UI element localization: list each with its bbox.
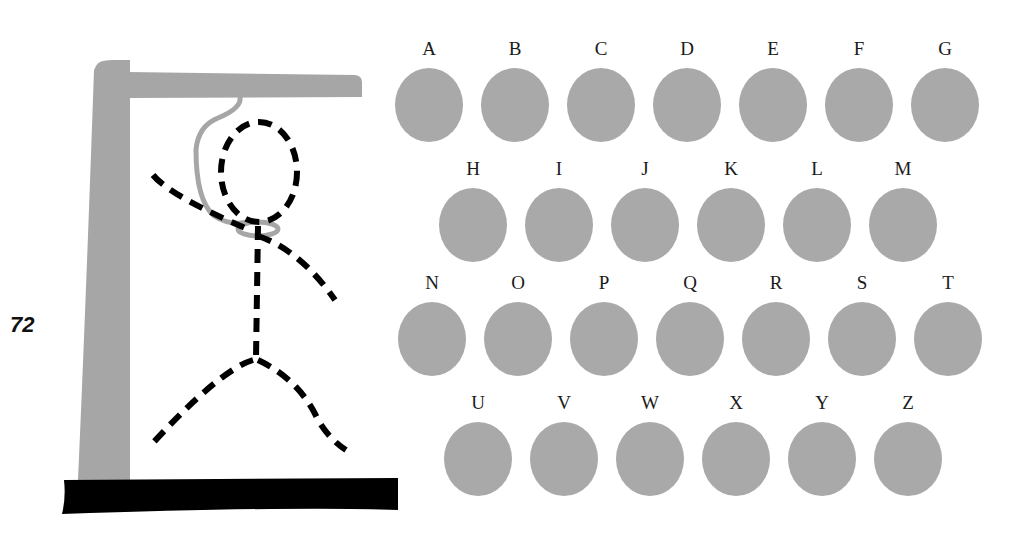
letter-button-e[interactable]: E (738, 36, 808, 142)
letter-disc[interactable] (525, 188, 593, 262)
letter-disc[interactable] (570, 302, 638, 376)
letter-button-r[interactable]: R (741, 270, 811, 376)
letter-button-z[interactable]: Z (873, 390, 943, 496)
letter-button-y[interactable]: Y (787, 390, 857, 496)
letter-button-k[interactable]: K (696, 156, 766, 262)
letter-button-p[interactable]: P (569, 270, 639, 376)
figure-right-leg (258, 360, 346, 450)
letter-label: D (652, 36, 722, 62)
letter-label: G (910, 36, 980, 62)
letter-button-c[interactable]: C (566, 36, 636, 142)
letter-label: F (824, 36, 894, 62)
letter-button-u[interactable]: U (443, 390, 513, 496)
hangman-drawing (0, 0, 420, 548)
letter-label: Q (655, 270, 725, 296)
letter-label: Y (787, 390, 857, 416)
letter-label: X (701, 390, 771, 416)
letter-label: J (610, 156, 680, 182)
letter-button-n[interactable]: N (397, 270, 467, 376)
letter-label: M (868, 156, 938, 182)
letter-label: K (696, 156, 766, 182)
figure-head (221, 122, 297, 222)
letter-disc[interactable] (788, 422, 856, 496)
letter-button-v[interactable]: V (529, 390, 599, 496)
letter-disc[interactable] (484, 302, 552, 376)
letter-disc[interactable] (914, 302, 982, 376)
letter-button-q[interactable]: Q (655, 270, 725, 376)
letter-label: N (397, 270, 467, 296)
letter-disc[interactable] (567, 68, 635, 142)
letter-label: T (913, 270, 983, 296)
letter-button-g[interactable]: G (910, 36, 980, 142)
letter-button-l[interactable]: L (782, 156, 852, 262)
letter-button-d[interactable]: D (652, 36, 722, 142)
letter-button-i[interactable]: I (524, 156, 594, 262)
letter-disc[interactable] (828, 302, 896, 376)
letter-label: S (827, 270, 897, 296)
letter-label: W (615, 390, 685, 416)
letter-disc[interactable] (697, 188, 765, 262)
letter-button-o[interactable]: O (483, 270, 553, 376)
letter-disc[interactable] (439, 188, 507, 262)
letter-disc[interactable] (783, 188, 851, 262)
figure-body (256, 226, 258, 358)
letter-button-b[interactable]: B (480, 36, 550, 142)
letter-disc[interactable] (911, 68, 979, 142)
figure-left-arm (153, 175, 250, 230)
letter-disc[interactable] (444, 422, 512, 496)
letter-label: L (782, 156, 852, 182)
letter-button-f[interactable]: F (824, 36, 894, 142)
letter-button-a[interactable]: A (394, 36, 464, 142)
letter-disc[interactable] (702, 422, 770, 496)
letter-label: E (738, 36, 808, 62)
letter-label: O (483, 270, 553, 296)
letter-button-s[interactable]: S (827, 270, 897, 376)
letter-label: R (741, 270, 811, 296)
letter-disc[interactable] (398, 302, 466, 376)
letter-label: P (569, 270, 639, 296)
letter-label: C (566, 36, 636, 62)
letter-button-w[interactable]: W (615, 390, 685, 496)
letter-disc[interactable] (530, 422, 598, 496)
letter-disc[interactable] (874, 422, 942, 496)
gallows-post (78, 60, 130, 480)
letter-label: I (524, 156, 594, 182)
letter-disc[interactable] (656, 302, 724, 376)
letter-button-t[interactable]: T (913, 270, 983, 376)
letter-disc[interactable] (742, 302, 810, 376)
letter-button-m[interactable]: M (868, 156, 938, 262)
letter-label: Z (873, 390, 943, 416)
letter-button-x[interactable]: X (701, 390, 771, 496)
letter-disc[interactable] (869, 188, 937, 262)
letter-disc[interactable] (653, 68, 721, 142)
figure-right-arm (258, 236, 335, 300)
letter-label: H (438, 156, 508, 182)
letter-disc[interactable] (825, 68, 893, 142)
letter-button-j[interactable]: J (610, 156, 680, 262)
gallows-beam (128, 72, 362, 98)
letter-disc[interactable] (611, 188, 679, 262)
letter-label: U (443, 390, 513, 416)
letter-disc[interactable] (395, 68, 463, 142)
letter-disc[interactable] (616, 422, 684, 496)
letter-label: B (480, 36, 550, 62)
gallows-base (62, 478, 398, 514)
letter-label: A (394, 36, 464, 62)
letter-disc[interactable] (481, 68, 549, 142)
figure-left-leg (152, 360, 253, 444)
letter-label: V (529, 390, 599, 416)
letter-disc[interactable] (739, 68, 807, 142)
letter-button-h[interactable]: H (438, 156, 508, 262)
